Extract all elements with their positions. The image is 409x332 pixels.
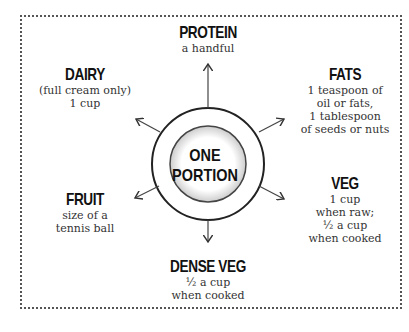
dense-veg-desc-1: ½ a cup: [150, 276, 266, 289]
group-dense-veg: DENSE VEG ½ a cup when cooked: [150, 258, 266, 302]
fats-desc-3: 1 tablespoon: [290, 110, 400, 123]
group-dairy: DAIRY (full cream only) 1 cup: [30, 66, 140, 110]
center-line1: ONE: [171, 146, 239, 166]
fats-desc-4: of seeds or nuts: [290, 123, 400, 136]
protein-desc-1: a handful: [160, 42, 256, 55]
dense-veg-title: DENSE VEG: [162, 258, 255, 276]
arrow-fats-icon: [259, 119, 284, 132]
fats-title: FATS: [301, 66, 389, 84]
group-protein: PROTEIN a handful: [160, 24, 256, 55]
dense-veg-desc-2: when cooked: [150, 289, 266, 302]
fats-desc-2: oil or fats,: [290, 97, 400, 110]
veg-title: VEG: [305, 175, 385, 193]
veg-desc-2: when raw;: [295, 206, 395, 219]
dairy-desc-1: (full cream only): [30, 84, 140, 97]
arrow-dairy-icon: [136, 119, 160, 132]
fruit-desc-2: tennis ball: [40, 222, 130, 235]
fruit-title: FRUIT: [49, 191, 121, 209]
protein-title: PROTEIN: [170, 24, 247, 42]
arrow-veg-icon: [259, 186, 284, 199]
dairy-title: DAIRY: [41, 66, 129, 84]
arrow-fruit-icon: [135, 186, 159, 198]
group-fats: FATS 1 teaspoon of oil or fats, 1 tables…: [290, 66, 400, 136]
dairy-desc-2: 1 cup: [30, 97, 140, 110]
group-fruit: FRUIT size of a tennis ball: [40, 191, 130, 235]
center-label: ONE PORTION: [171, 146, 239, 186]
group-veg: VEG 1 cup when raw; ½ a cup when cooked: [295, 175, 395, 245]
fats-desc-1: 1 teaspoon of: [290, 84, 400, 97]
veg-desc-3: ½ a cup: [295, 219, 395, 232]
veg-desc-4: when cooked: [295, 232, 395, 245]
center-line2: PORTION: [171, 166, 239, 186]
veg-desc-1: 1 cup: [295, 193, 395, 206]
fruit-desc-1: size of a: [40, 209, 130, 222]
